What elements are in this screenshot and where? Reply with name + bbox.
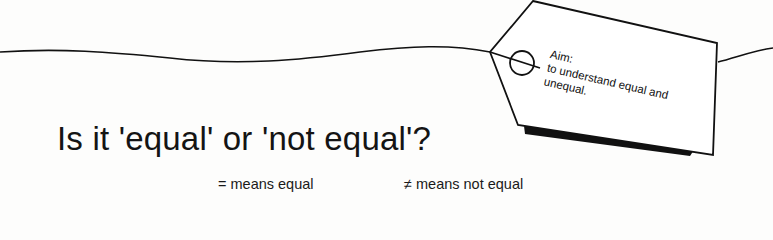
page-title: Is it 'equal' or 'not equal'? [57, 120, 431, 158]
equal-key: = means equal [218, 176, 314, 192]
not-equal-key: ≠ means not equal [404, 176, 523, 192]
string-line [0, 47, 490, 62]
string-line-right [718, 48, 773, 62]
